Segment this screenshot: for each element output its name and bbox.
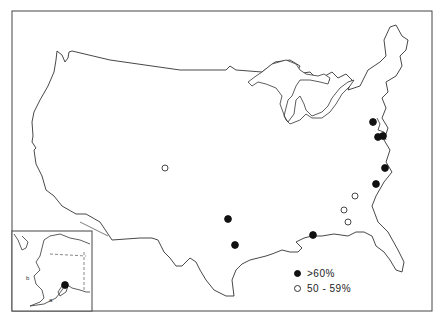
filled-circle-icon — [294, 270, 301, 277]
marker-high — [62, 282, 69, 289]
open-circle-icon — [294, 285, 301, 292]
marker-high — [380, 133, 387, 140]
marker-mid — [162, 165, 168, 171]
marker-mid — [341, 207, 347, 213]
marker-mid — [352, 193, 358, 199]
legend-label-mid: 50 - 59% — [307, 281, 351, 296]
great-lakes — [248, 60, 354, 124]
legend: >60% 50 - 59% — [294, 266, 351, 296]
legend-item-high: >60% — [294, 266, 351, 281]
legend-item-mid: 50 - 59% — [294, 281, 351, 296]
marker-high — [225, 216, 232, 223]
marker-high — [370, 119, 377, 126]
data-markers — [62, 119, 389, 289]
marker-high — [382, 165, 389, 172]
legend-label-high: >60% — [307, 266, 335, 281]
us-map: b a — [0, 0, 441, 323]
marker-high — [310, 232, 317, 239]
marker-high — [373, 181, 380, 188]
marker-mid — [345, 219, 351, 225]
marker-high — [232, 242, 239, 249]
